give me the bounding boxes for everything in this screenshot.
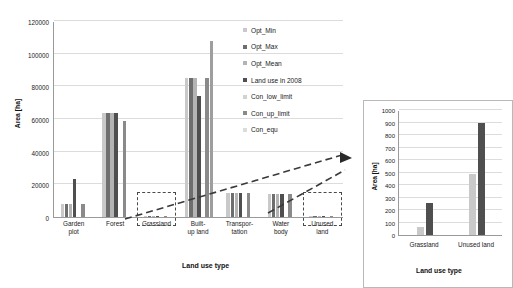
- main-bar: [61, 204, 64, 217]
- inset-x-axis-label: Land use type: [416, 267, 462, 274]
- main-bar: [73, 179, 76, 217]
- inset-gridline: [399, 109, 502, 110]
- legend-swatch-2: [243, 45, 247, 49]
- main-bar: [268, 194, 271, 217]
- main-bar: [102, 113, 105, 217]
- legend-item: Con_up_limit: [243, 105, 355, 122]
- legend-label: Opt_Min: [251, 27, 276, 34]
- legend-label: Con_equ: [251, 126, 278, 133]
- main-bar: [185, 78, 188, 217]
- chart-legend: Opt_MinOpt_MaxOpt_MeanLand use in 2008Co…: [243, 22, 355, 138]
- inset-y-tick-label: 700: [385, 146, 395, 152]
- main-bar: [193, 78, 196, 217]
- legend-label: Opt_Max: [251, 43, 278, 50]
- main-bar: [239, 193, 242, 217]
- main-bar: [197, 96, 200, 217]
- main-gridline: [54, 20, 343, 21]
- main-bar: [247, 193, 250, 217]
- legend-item: Opt_Mean: [243, 55, 355, 72]
- main-x-category-label: Garden plot: [53, 220, 94, 235]
- callout-selection-box: [137, 192, 176, 226]
- legend-swatch-5: [243, 95, 247, 99]
- main-bar: [288, 194, 291, 217]
- inset-y-axis-ticks: 01002003004005006007008009001000: [364, 111, 395, 236]
- main-bar: [276, 194, 279, 217]
- main-bar: [272, 194, 275, 217]
- inset-y-tick-label: 300: [385, 196, 395, 202]
- main-x-category-label: Water body: [260, 220, 301, 235]
- main-bar: [106, 113, 109, 217]
- legend-item: Land use in 2008: [243, 72, 355, 89]
- main-bar: [110, 113, 113, 217]
- main-bar: [210, 41, 213, 217]
- main-y-tick-label: 100000: [28, 51, 49, 58]
- main-bar: [69, 204, 72, 217]
- main-y-tick-label: 80000: [31, 84, 49, 91]
- legend-label: Con_up_limit: [251, 110, 289, 117]
- legend-swatch-3: [243, 61, 247, 65]
- inset-y-tick-label: 900: [385, 121, 395, 127]
- callout-selection-box: [303, 192, 342, 226]
- main-x-category-label: Built- up land: [177, 220, 218, 235]
- inset-y-tick-label: 200: [385, 208, 395, 214]
- legend-item: Con_equ: [243, 122, 355, 139]
- main-bar: [235, 193, 238, 217]
- main-x-axis-label: Land use type: [182, 262, 229, 269]
- legend-swatch-4: [243, 78, 247, 82]
- main-bar: [280, 194, 283, 217]
- inset-y-tick-label: 500: [385, 171, 395, 177]
- main-y-tick-label: 60000: [31, 117, 49, 124]
- inset-bar-chart: Area [ha] 010020030040050060070080090010…: [363, 100, 513, 288]
- main-y-tick-label: 120000: [28, 19, 49, 26]
- inset-y-tick-label: 100: [385, 221, 395, 227]
- main-bar-group: [178, 22, 219, 217]
- legend-label: Opt_Mean: [251, 60, 282, 67]
- legend-item: Con_low_limit: [243, 88, 355, 105]
- main-bar: [114, 113, 117, 217]
- main-bar: [205, 78, 208, 217]
- main-y-axis-ticks: 020000400006000080000100000120000: [0, 22, 49, 218]
- legend-label: Land use in 2008: [251, 77, 302, 84]
- legend-label: Con_low_limit: [251, 93, 292, 100]
- main-bar-group: [137, 22, 178, 217]
- inset-x-category-label: Unused land: [450, 241, 502, 248]
- main-y-tick-label: 40000: [31, 149, 49, 156]
- main-bar: [65, 204, 68, 217]
- main-bar: [226, 193, 229, 217]
- inset-bar: [426, 203, 433, 235]
- main-bar-group: [95, 22, 136, 217]
- legend-item: Opt_Min: [243, 22, 355, 39]
- legend-swatch-6: [243, 111, 247, 115]
- main-y-tick-label: 20000: [31, 182, 49, 189]
- main-x-category-label: Forest: [94, 220, 135, 228]
- inset-y-tick-label: 1000: [382, 108, 395, 114]
- legend-swatch-1: [243, 28, 247, 32]
- main-bar-group: [54, 22, 95, 217]
- inset-bar-group: [451, 111, 503, 235]
- main-bar: [231, 193, 234, 217]
- inset-y-tick-label: 600: [385, 158, 395, 164]
- inset-bar: [469, 174, 476, 235]
- inset-bar-group: [399, 111, 451, 235]
- inset-bar: [417, 227, 424, 235]
- main-bar: [189, 78, 192, 217]
- main-x-category-label: Transpor- tation: [219, 220, 260, 235]
- inset-y-tick-label: 400: [385, 183, 395, 189]
- legend-swatch-7: [243, 128, 247, 132]
- inset-bar: [478, 123, 485, 236]
- inset-x-category-label: Grassland: [398, 241, 450, 248]
- legend-item: Opt_Max: [243, 39, 355, 56]
- inset-y-tick-label: 0: [392, 233, 395, 239]
- inset-plot-area: [398, 111, 502, 236]
- main-bar: [81, 204, 84, 217]
- inset-y-tick-label: 800: [385, 133, 395, 139]
- main-bar: [123, 121, 126, 217]
- main-y-tick-label: 0: [45, 215, 49, 222]
